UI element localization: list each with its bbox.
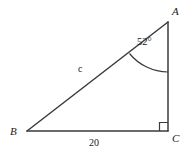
vertex-label-a: A [172,6,179,17]
angle-label-at-a: 52° [137,37,152,48]
right-angle-marker-at-c [160,123,169,132]
triangle-figure: A B C c 20 52° [0,0,191,158]
angle-arc-at-a [130,54,169,73]
side-label-base: 20 [89,138,99,148]
side-label-hypotenuse: c [78,64,82,74]
vertex-label-c: C [172,133,179,144]
vertex-label-b: B [10,126,17,137]
triangle-drawing [0,0,191,158]
